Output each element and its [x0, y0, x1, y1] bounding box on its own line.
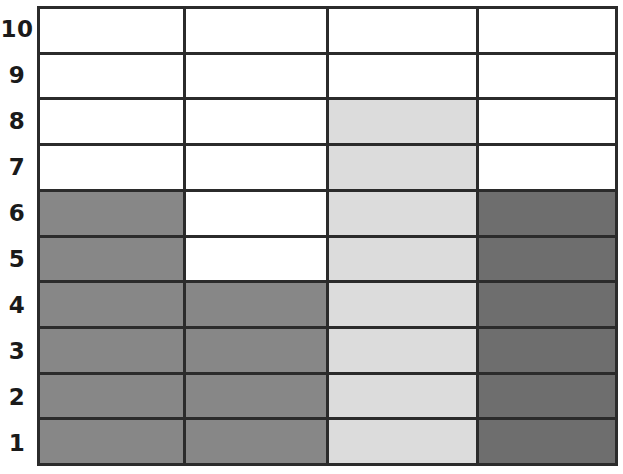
y-axis-tick-label: 1: [0, 420, 34, 466]
grid-cell[interactable]: [40, 55, 186, 98]
grid-cell[interactable]: [40, 375, 186, 418]
grid-cell[interactable]: [479, 283, 615, 326]
bar-chart-grid: [37, 6, 618, 466]
grid-cell[interactable]: [479, 238, 615, 281]
grid-cell[interactable]: [329, 55, 479, 98]
y-axis-tick-label: 8: [0, 98, 34, 144]
grid-row: [40, 146, 615, 192]
grid-row: [40, 420, 615, 463]
grid-cell[interactable]: [40, 238, 186, 281]
y-axis-tick-label: 5: [0, 236, 34, 282]
grid-row: [40, 375, 615, 421]
grid-cell[interactable]: [329, 100, 479, 143]
grid-row: [40, 55, 615, 101]
grid-cell[interactable]: [186, 192, 329, 235]
grid-row: [40, 283, 615, 329]
y-axis-tick-label: 9: [0, 52, 34, 98]
grid-row: [40, 100, 615, 146]
grid-cell[interactable]: [186, 238, 329, 281]
grid-cell[interactable]: [479, 55, 615, 98]
grid-row: [40, 192, 615, 238]
grid-cell[interactable]: [479, 100, 615, 143]
y-axis-tick-label: 6: [0, 190, 34, 236]
grid-cell[interactable]: [186, 55, 329, 98]
y-axis-tick-label: 4: [0, 282, 34, 328]
grid-cell[interactable]: [329, 375, 479, 418]
grid-cell[interactable]: [329, 9, 479, 52]
grid-row: [40, 238, 615, 284]
grid-cell[interactable]: [40, 420, 186, 463]
grid-cell[interactable]: [186, 420, 329, 463]
grid-cell[interactable]: [479, 375, 615, 418]
grid-cell[interactable]: [186, 375, 329, 418]
y-axis-tick-label: 3: [0, 328, 34, 374]
grid-cell[interactable]: [479, 9, 615, 52]
grid-cell[interactable]: [479, 146, 615, 189]
grid-row: [40, 9, 615, 55]
grid-cell[interactable]: [40, 192, 186, 235]
grid-cell[interactable]: [329, 420, 479, 463]
grid-cell[interactable]: [40, 100, 186, 143]
grid-cell[interactable]: [329, 238, 479, 281]
grid-cell[interactable]: [40, 329, 186, 372]
grid-cell[interactable]: [40, 283, 186, 326]
grid-row: [40, 329, 615, 375]
grid-cell[interactable]: [186, 329, 329, 372]
grid-cell[interactable]: [479, 420, 615, 463]
y-axis-tick-label: 10: [0, 6, 34, 52]
y-axis-tick-label: 2: [0, 374, 34, 420]
y-axis-tick-labels: 10987654321: [0, 6, 34, 466]
chart-canvas: 10987654321: [0, 0, 623, 474]
grid-cell[interactable]: [40, 146, 186, 189]
grid-cell[interactable]: [329, 146, 479, 189]
y-axis-tick-label: 7: [0, 144, 34, 190]
grid-cell[interactable]: [479, 192, 615, 235]
grid-cell[interactable]: [186, 283, 329, 326]
grid-cell[interactable]: [329, 192, 479, 235]
grid-cell[interactable]: [40, 9, 186, 52]
grid-cell[interactable]: [186, 100, 329, 143]
grid-cell[interactable]: [329, 329, 479, 372]
grid-cell[interactable]: [186, 146, 329, 189]
grid-cell[interactable]: [329, 283, 479, 326]
grid-cell[interactable]: [186, 9, 329, 52]
grid-cell[interactable]: [479, 329, 615, 372]
